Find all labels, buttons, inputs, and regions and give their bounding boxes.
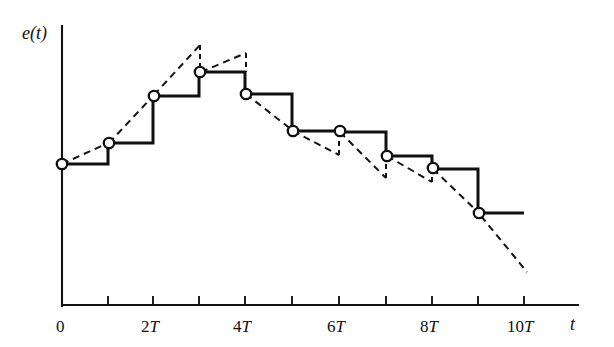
- waveform-plot-svg: e(t) t 0 2T 4T 6T 8T 10T: [0, 0, 614, 347]
- sample-point-1T: [104, 138, 114, 148]
- sample-point-3T: [195, 67, 205, 77]
- ramp-segment-1: [109, 96, 153, 143]
- sample-point-4T: [241, 89, 251, 99]
- x-tick-label-0: 0: [56, 317, 65, 336]
- sample-point-8T: [428, 163, 438, 173]
- x-tick-label-6T: 6T: [327, 317, 347, 336]
- sample-point-9T: [474, 208, 484, 218]
- ramp-segment-5: [293, 131, 339, 155]
- sample-point-2T: [149, 91, 159, 101]
- sample-point-7T: [382, 151, 392, 161]
- ramp-segment-3: [201, 53, 246, 72]
- ramp-segment-4: [246, 94, 292, 130]
- ramp-segment-8: [433, 169, 478, 212]
- y-axis-label: e(t): [22, 23, 47, 44]
- x-axis-ticks: [108, 296, 524, 305]
- staircase-path: [62, 72, 524, 213]
- x-axis-label: t: [570, 314, 576, 334]
- figure-container: e(t) t 0 2T 4T 6T 8T 10T: [0, 0, 614, 347]
- ramp-segment-9: [481, 216, 527, 272]
- ramp-segment-0: [62, 143, 108, 164]
- ramp-segment-6: [340, 132, 386, 178]
- x-tick-label-10T: 10T: [507, 317, 535, 336]
- ramp-segment-7: [387, 156, 432, 182]
- sample-point-6T: [335, 126, 345, 136]
- ramp-segment-2: [154, 45, 200, 95]
- x-tick-label-4T: 4T: [233, 317, 253, 336]
- axes-group: [62, 26, 578, 306]
- x-tick-label-2T: 2T: [141, 317, 161, 336]
- sample-point-0T: [57, 159, 67, 169]
- staircase-step-group: [62, 72, 524, 213]
- x-tick-label-8T: 8T: [420, 317, 440, 336]
- dashed-ramp-group: [62, 45, 527, 272]
- sample-point-5T: [288, 126, 298, 136]
